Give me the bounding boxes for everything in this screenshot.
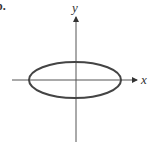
x-axis-label: x	[140, 72, 147, 87]
figure-label: b.	[0, 0, 6, 13]
y-axis-label: y	[70, 0, 78, 15]
ellipse-diagram: b. x y	[0, 0, 157, 147]
